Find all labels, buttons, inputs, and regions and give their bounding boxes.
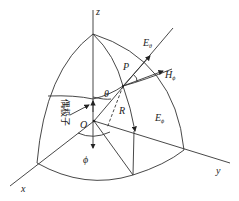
origin-label: O — [80, 119, 87, 130]
point-p-label: P — [122, 61, 129, 72]
radial-line-bottom — [94, 121, 133, 175]
dipole-sphere-diagram: z x y O P θ R ϕ Eθ Hϕ Eϕ 偶极子 — [0, 0, 239, 201]
meridian-arc — [93, 34, 135, 131]
origin-point — [93, 120, 96, 123]
h-phi-arrow — [123, 71, 163, 86]
y-axis-label: y — [215, 165, 221, 176]
meridian-lower — [133, 131, 134, 175]
dipole-label: 偶极子 — [60, 99, 71, 126]
latitude-arc — [48, 69, 172, 99]
phi-angle-arc — [78, 132, 110, 136]
radius-label: R — [118, 105, 125, 116]
h-phi-label: Hϕ — [164, 69, 175, 81]
theta-label: θ — [104, 88, 109, 99]
x-axis — [10, 121, 94, 186]
sphere-bottom-arc — [37, 150, 184, 180]
e-phi-label: Eϕ — [154, 112, 164, 124]
x-axis-label: x — [20, 183, 26, 194]
dipole-pointer-arrow — [70, 105, 89, 115]
y-axis — [94, 121, 230, 163]
point-p — [122, 85, 124, 87]
z-axis-label: z — [95, 6, 100, 17]
phi-label: ϕ — [83, 154, 88, 165]
e-theta-top-label: Eθ — [142, 37, 152, 49]
